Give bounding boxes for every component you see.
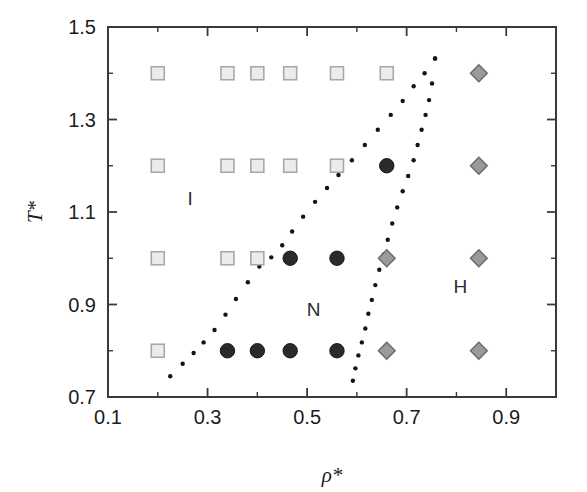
y-axis-tick-label: 1.1 xyxy=(68,201,96,223)
boundary-dot xyxy=(415,143,419,147)
y-axis-tick-label: 1.3 xyxy=(68,109,96,131)
data-point-diamond xyxy=(470,157,487,174)
data-point-square xyxy=(284,67,297,80)
boundary-dot xyxy=(280,243,284,247)
boundary-dot xyxy=(400,99,404,103)
phase-diagram-figure: 0.10.30.50.70.90.70.91.11.31.5 INH ρ* T* xyxy=(0,0,587,492)
data-point-square xyxy=(221,67,234,80)
boundary-dot xyxy=(168,374,172,378)
data-point-circle xyxy=(250,344,264,358)
data-point-square xyxy=(151,159,164,172)
data-point-diamond xyxy=(470,250,487,267)
isotropic-phase-label: I xyxy=(187,188,192,209)
boundary-dot xyxy=(427,98,431,102)
data-point-diamond xyxy=(470,65,487,82)
boundary-dot xyxy=(234,297,238,301)
data-point-square xyxy=(251,159,264,172)
boundary-dot xyxy=(246,280,250,284)
data-point-circle xyxy=(283,251,297,265)
boundary-dot xyxy=(313,200,317,204)
boundary-dot xyxy=(212,328,216,332)
boundary-dot xyxy=(400,189,404,193)
boundary-dot xyxy=(336,173,340,177)
plot-canvas: 0.10.30.50.70.90.70.91.11.31.5 INH ρ* T* xyxy=(0,0,587,492)
boundary-dot xyxy=(411,84,415,88)
y-axis-tick-label: 1.5 xyxy=(68,16,96,38)
axes-layer xyxy=(108,27,556,397)
boundary-dot xyxy=(386,238,390,242)
boundary-dot xyxy=(290,229,294,233)
x-axis-tick-label: 0.7 xyxy=(393,406,421,428)
data-point-circle xyxy=(283,344,297,358)
nematic-phase-label: N xyxy=(307,299,321,320)
boundary-dot xyxy=(377,268,381,272)
data-point-square xyxy=(221,252,234,265)
data-point-circle xyxy=(330,344,344,358)
boundary-dot xyxy=(419,127,423,131)
axis-titles-layer: ρ* T* xyxy=(23,200,343,487)
boundary-dot xyxy=(223,312,227,316)
boundary-dot xyxy=(430,81,434,85)
boundary-dot xyxy=(422,71,426,75)
boundary-dot xyxy=(376,127,380,131)
boundary-dot xyxy=(360,340,364,344)
data-point-circle xyxy=(330,251,344,265)
x-axis-tick-label: 0.9 xyxy=(492,406,520,428)
boundary-dot xyxy=(370,298,374,302)
boundary-dot xyxy=(395,205,399,209)
phase-boundary xyxy=(168,56,437,378)
boundary-dot xyxy=(363,143,367,147)
boundary-dot xyxy=(411,158,415,162)
data-series xyxy=(378,65,487,359)
boundary-dot xyxy=(356,353,360,357)
boundary-dot xyxy=(325,186,329,190)
boundary-dot xyxy=(433,56,437,60)
boundary-dot xyxy=(406,174,410,178)
data-point-diamond xyxy=(470,342,487,359)
data-point-square xyxy=(151,67,164,80)
boundary-dot xyxy=(363,326,367,330)
x-axis-tick-label: 0.3 xyxy=(194,406,222,428)
boundary-dot xyxy=(366,312,370,316)
boundary-dot xyxy=(389,113,393,117)
boundary-dot xyxy=(201,340,205,344)
data-series xyxy=(151,67,393,358)
x-axis-title: ρ* xyxy=(321,463,343,487)
boundary-dot xyxy=(191,351,195,355)
boundary-dots-layer xyxy=(168,56,437,383)
data-point-square xyxy=(251,252,264,265)
x-axis-tick-label: 0.1 xyxy=(94,406,122,428)
data-point-square xyxy=(151,252,164,265)
boundary-dot xyxy=(423,113,427,117)
y-axis-tick-label: 0.7 xyxy=(68,386,96,408)
y-axis-title: T* xyxy=(23,200,47,223)
hexagonal-phase-label: H xyxy=(454,276,468,297)
boundary-dot xyxy=(351,379,355,383)
data-point-circle xyxy=(380,159,394,173)
plot-frame xyxy=(108,27,556,397)
data-point-square xyxy=(151,344,164,357)
boundary-dot xyxy=(353,366,357,370)
data-series xyxy=(220,159,394,358)
data-point-square xyxy=(284,159,297,172)
data-point-square xyxy=(330,159,343,172)
boundary-dot xyxy=(301,214,305,218)
boundary-dot xyxy=(350,158,354,162)
data-point-diamond xyxy=(378,342,395,359)
data-point-square xyxy=(330,67,343,80)
boundary-dot xyxy=(269,255,273,259)
y-axis-tick-label: 0.9 xyxy=(68,294,96,316)
data-point-square xyxy=(221,159,234,172)
x-axis-tick-label: 0.5 xyxy=(293,406,321,428)
data-point-square xyxy=(251,67,264,80)
boundary-dot xyxy=(180,362,184,366)
boundary-dot xyxy=(390,221,394,225)
phase-boundary xyxy=(351,56,438,383)
boundary-dot xyxy=(373,283,377,287)
data-point-diamond xyxy=(378,250,395,267)
data-point-square xyxy=(380,67,393,80)
data-point-circle xyxy=(220,344,234,358)
